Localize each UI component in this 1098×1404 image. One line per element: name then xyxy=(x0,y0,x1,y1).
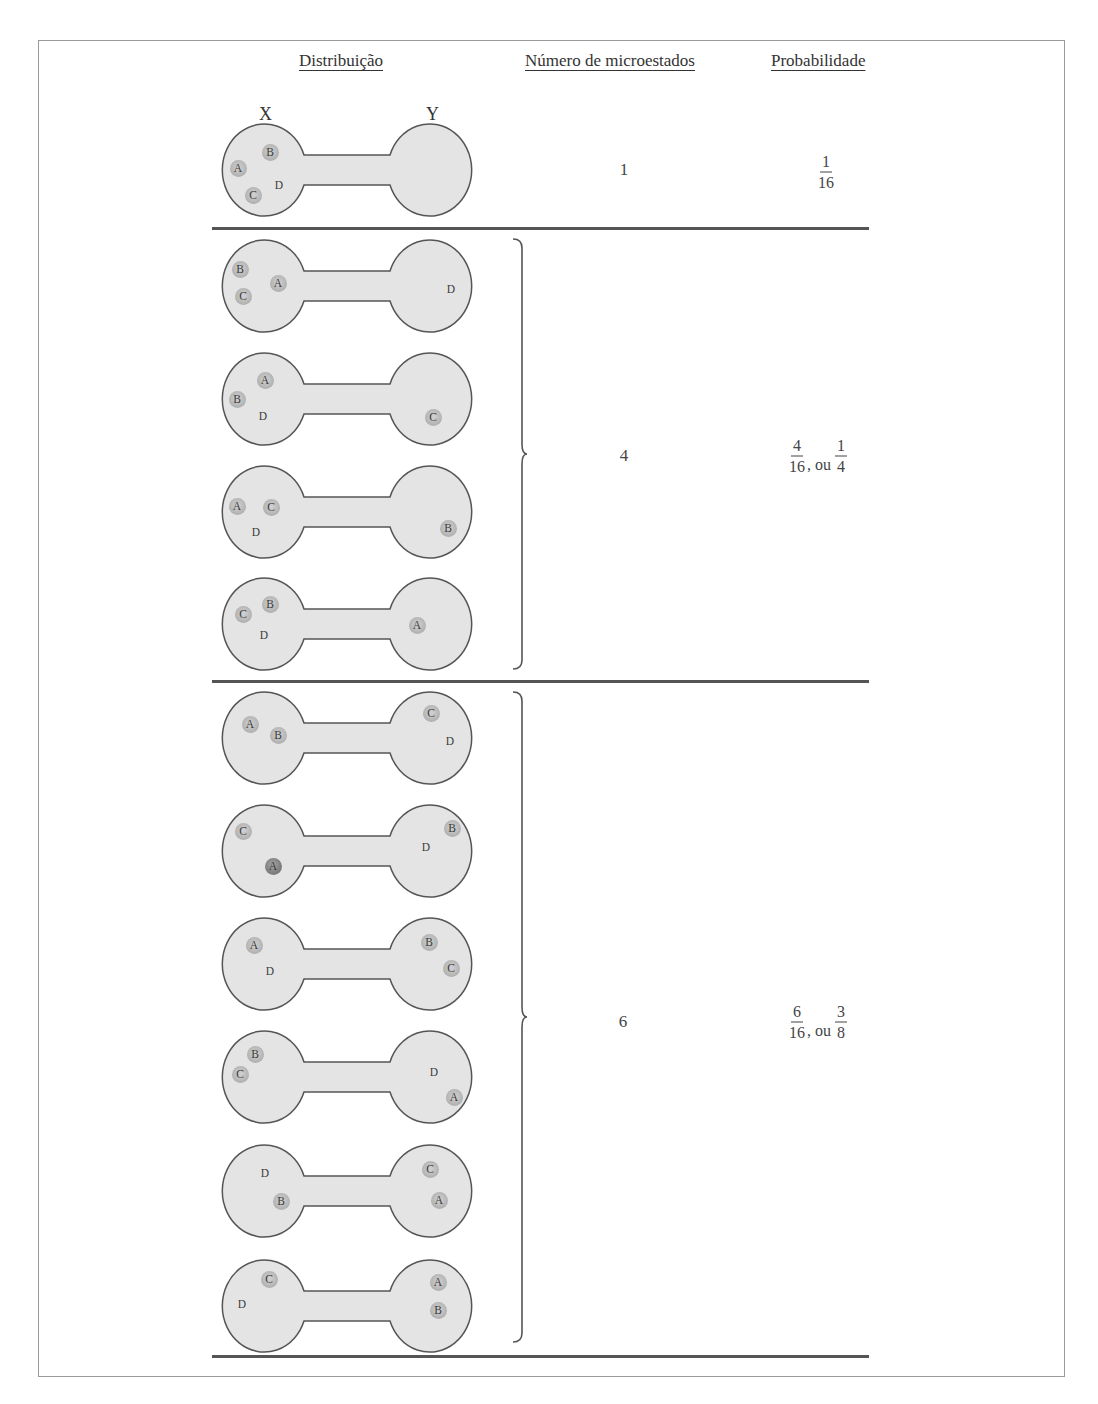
connected-bulbs-icon xyxy=(220,801,478,901)
flask-distribution: ACDB xyxy=(220,462,478,562)
molecule-b-right: B xyxy=(421,934,438,951)
molecule-d-left: D xyxy=(256,627,273,644)
probability-value: 1 16 xyxy=(817,154,835,191)
molecule-a-right: A xyxy=(430,1274,447,1291)
molecule-d-right: D xyxy=(442,733,459,750)
probability-value: 6 16 , ou 3 8 xyxy=(788,1004,848,1041)
molecule-a-left: A xyxy=(242,716,259,733)
molecule-c-left: C xyxy=(232,1066,249,1083)
header-probability: Probabilidade xyxy=(771,51,865,71)
figure-frame xyxy=(38,40,1065,1377)
flask-distribution: ABDC xyxy=(220,349,478,449)
flask-distribution: CABD xyxy=(220,801,478,901)
flask-distribution: ABCD xyxy=(220,120,478,220)
molecule-c-left: C xyxy=(235,823,252,840)
connected-bulbs-icon xyxy=(220,236,478,336)
molecule-a-left: A xyxy=(265,858,282,875)
fraction: 6 16 xyxy=(789,1004,805,1041)
molecule-d-right: D xyxy=(418,839,435,856)
flask-distribution: BACD xyxy=(220,236,478,336)
molecule-d-left: D xyxy=(257,1165,274,1182)
molecule-b-left: B xyxy=(232,261,249,278)
connected-bulbs-icon xyxy=(220,349,478,449)
molecule-c-left: C xyxy=(235,288,252,305)
fraction: 3 8 xyxy=(835,1004,847,1041)
connected-bulbs-icon xyxy=(220,914,478,1014)
molecule-b-left: B xyxy=(273,1193,290,1210)
molecule-b-left: B xyxy=(262,596,279,613)
group-divider xyxy=(212,680,869,683)
molecule-b-left: B xyxy=(262,144,279,161)
molecule-c-right: C xyxy=(422,1161,439,1178)
molecule-b-right: B xyxy=(440,520,457,537)
molecule-b-left: B xyxy=(229,391,246,408)
connected-bulbs-icon xyxy=(220,688,478,788)
fraction: 1 4 xyxy=(835,438,847,475)
probability-or: , ou xyxy=(807,456,831,475)
connected-bulbs-icon xyxy=(220,120,478,220)
molecule-c-left: C xyxy=(263,499,280,516)
molecule-a-right: A xyxy=(409,617,426,634)
molecule-a-left: A xyxy=(257,372,274,389)
molecule-b-left: B xyxy=(247,1046,264,1063)
molecule-c-right: C xyxy=(423,705,440,722)
molecule-d-left: D xyxy=(248,524,265,541)
molecule-d-right: D xyxy=(443,281,460,298)
molecule-c-left: C xyxy=(261,1271,278,1288)
molecule-d-left: D xyxy=(271,177,288,194)
molecule-c-left: C xyxy=(245,187,262,204)
molecule-a-right: A xyxy=(431,1192,448,1209)
molecule-b-left: B xyxy=(270,727,287,744)
probability-value: 4 16 , ou 1 4 xyxy=(788,438,848,475)
molecule-c-left: C xyxy=(235,606,252,623)
flask-distribution: DBCA xyxy=(220,1141,478,1241)
molecule-a-left: A xyxy=(270,275,287,292)
molecule-d-right: D xyxy=(426,1064,443,1081)
molecule-a-left: A xyxy=(229,498,246,515)
group-brace xyxy=(510,238,530,670)
group-divider xyxy=(212,227,869,230)
molecule-a-right: A xyxy=(446,1089,463,1106)
molecule-b-right: B xyxy=(430,1302,447,1319)
connected-bulbs-icon xyxy=(220,462,478,562)
molecule-a-left: A xyxy=(230,160,247,177)
connected-bulbs-icon xyxy=(220,574,478,674)
flask-distribution: ADBC xyxy=(220,914,478,1014)
probability-or: , ou xyxy=(807,1022,831,1041)
microstate-count: 6 xyxy=(619,1012,628,1032)
microstate-count: 1 xyxy=(620,160,629,180)
flask-distribution: BCDA xyxy=(220,574,478,674)
flask-distribution: BCDA xyxy=(220,1027,478,1127)
molecule-c-right: C xyxy=(425,409,442,426)
molecule-c-right: C xyxy=(443,960,460,977)
header-microstates: Número de microestados xyxy=(525,51,695,71)
molecule-b-right: B xyxy=(444,820,461,837)
flask-distribution: ABCD xyxy=(220,688,478,788)
microstate-count: 4 xyxy=(620,446,629,466)
molecule-d-left: D xyxy=(234,1296,251,1313)
header-distribution: Distribuição xyxy=(299,51,383,71)
group-brace xyxy=(510,691,530,1343)
fraction: 1 16 xyxy=(818,154,834,191)
fraction: 4 16 xyxy=(789,438,805,475)
molecule-d-left: D xyxy=(255,408,272,425)
molecule-d-left: D xyxy=(262,963,279,980)
flask-distribution: CDAB xyxy=(220,1256,478,1356)
molecule-a-left: A xyxy=(246,937,263,954)
